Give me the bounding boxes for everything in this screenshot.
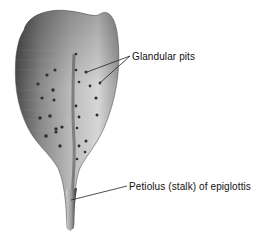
epiglottis-drawing <box>0 0 262 245</box>
glandular-pits-label: Glandular pits <box>132 51 195 62</box>
epiglottis-illustration: Glandular pits Petiolus (stalk) of epigl… <box>0 0 262 245</box>
central-ridge <box>72 54 74 200</box>
petiolus-label: Petiolus (stalk) of epiglottis <box>129 181 251 192</box>
petiolus-stalk <box>66 188 77 231</box>
